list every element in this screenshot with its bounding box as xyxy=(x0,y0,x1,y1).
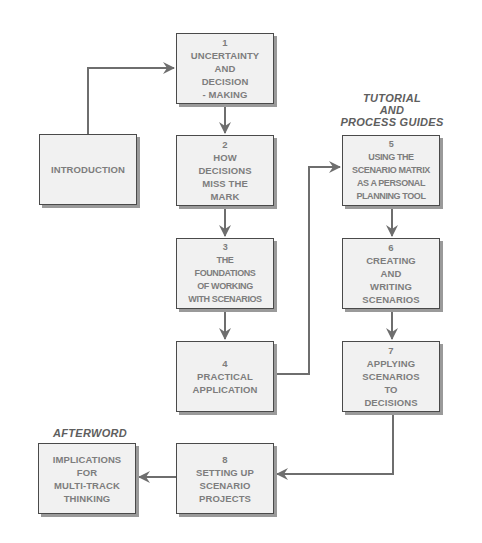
box-text: PRACTICAL xyxy=(197,370,253,383)
box-text: INTRODUCTION xyxy=(51,163,125,176)
box-text: MULTI-TRACK xyxy=(54,479,120,492)
box-text: MISS THE xyxy=(202,177,248,190)
connector-ch4-to-ch5 xyxy=(274,167,340,374)
label-line: TUTORIAL xyxy=(330,92,454,104)
box-text: THINKING xyxy=(64,492,111,505)
chapter-number: 2 xyxy=(222,138,227,151)
chapter-number: 6 xyxy=(388,241,393,254)
chapter-number: 4 xyxy=(222,357,227,370)
box-text: IMPLICATIONS xyxy=(53,453,122,466)
label-line: AND xyxy=(330,104,454,116)
box-chapter-7: 7 APPLYING SCENARIOS TO DECISIONS xyxy=(342,341,440,412)
box-text: DECISION xyxy=(202,75,249,88)
box-chapter-3: 3 THE FOUNDATIONS OF WORKING WITH SCENAR… xyxy=(176,238,274,309)
afterword-section-label: AFTERWORD xyxy=(40,427,140,439)
chapter-number: 7 xyxy=(388,344,393,357)
box-text: AS A PERSONAL xyxy=(357,177,425,190)
tutorial-section-label: TUTORIAL AND PROCESS GUIDES xyxy=(330,92,454,128)
box-text: UNCERTAINTY xyxy=(191,49,259,62)
box-text: USING THE xyxy=(368,151,413,164)
connector-intro-to-ch1 xyxy=(88,68,174,134)
box-chapter-1: 1 UNCERTAINTY AND DECISION - MAKING xyxy=(176,33,274,104)
box-text: PLANNING TOOL xyxy=(356,190,425,203)
box-text: TO xyxy=(384,383,397,396)
box-text: WRITING xyxy=(370,280,412,293)
box-chapter-2: 2 HOW DECISIONS MISS THE MARK xyxy=(176,135,274,206)
box-text: SCENARIOS xyxy=(362,370,419,383)
box-text: SCENARIO MATRIX xyxy=(352,164,430,177)
box-chapter-4: 4 PRACTICAL APPLICATION xyxy=(176,341,274,412)
chapter-number: 1 xyxy=(222,36,227,49)
box-text: SCENARIOS xyxy=(362,293,419,306)
box-text: HOW xyxy=(213,151,237,164)
box-text: OF WORKING xyxy=(197,280,253,293)
box-text: PROJECTS xyxy=(199,492,251,505)
box-text: WITH SCENARIOS xyxy=(188,293,261,306)
box-text: MARK xyxy=(211,190,240,203)
chapter-number: 8 xyxy=(222,453,227,466)
box-chapter-8: 8 SETTING UP SCENARIO PROJECTS xyxy=(176,443,274,514)
label-line: AFTERWORD xyxy=(53,427,127,439)
box-text: SCENARIO xyxy=(200,479,251,492)
box-text: APPLICATION xyxy=(193,383,258,396)
box-text: - MAKING xyxy=(202,88,247,101)
chapter-number: 5 xyxy=(389,138,394,151)
box-text: SETTING UP xyxy=(196,466,254,479)
box-text: AND xyxy=(381,267,402,280)
box-text: THE xyxy=(217,254,234,267)
chapter-number: 3 xyxy=(223,241,228,254)
box-afterword: IMPLICATIONS FOR MULTI-TRACK THINKING xyxy=(38,443,136,514)
box-text: FOR xyxy=(77,466,97,479)
label-line: PROCESS GUIDES xyxy=(330,116,454,128)
box-text: CREATING xyxy=(366,254,416,267)
box-text: APPLYING xyxy=(367,357,416,370)
box-text: DECISIONS xyxy=(198,164,251,177)
box-text: AND xyxy=(215,62,236,75)
box-introduction: INTRODUCTION xyxy=(39,134,137,205)
connector-ch7-to-ch8 xyxy=(277,412,393,474)
box-text: FOUNDATIONS xyxy=(195,267,256,280)
box-chapter-5: 5 USING THE SCENARIO MATRIX AS A PERSONA… xyxy=(342,135,440,206)
box-text: DECISIONS xyxy=(364,396,417,409)
box-chapter-6: 6 CREATING AND WRITING SCENARIOS xyxy=(342,238,440,309)
